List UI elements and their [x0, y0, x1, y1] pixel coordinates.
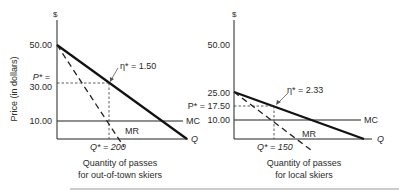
right-mr-label: MR [302, 129, 316, 139]
right-q-axis-label: Q [377, 134, 384, 144]
right-mc-label: MC [364, 115, 378, 125]
left-panel [57, 20, 188, 147]
right-pstar-label: P* = 17.50 [182, 101, 230, 111]
left-mr-line [57, 45, 124, 147]
right-dollar-symbol: $ [232, 10, 236, 20]
right-demand-line [234, 92, 364, 139]
left-caption-line1: Quantity of passes [70, 158, 170, 169]
left-tick-10: 10.00 [18, 116, 52, 126]
left-tick-30: 30.00 [18, 82, 52, 92]
right-tick-10: 10.00 [196, 115, 230, 125]
left-elasticity-label: η* = 1.50 [120, 61, 156, 71]
left-demand-line [57, 45, 187, 139]
left-tick-50: 50.00 [18, 40, 52, 50]
left-qstar-label: Q* = 200 [90, 142, 126, 152]
right-qstar-label: Q* = 150 [257, 142, 293, 152]
left-q-axis-label: Q [191, 134, 198, 144]
right-tick-25: 25.00 [196, 88, 230, 98]
left-pstar-label: P* = [18, 72, 50, 82]
right-elasticity-label: η* = 2.33 [287, 85, 323, 95]
left-caption-line2: for out-of-town skiers [70, 170, 170, 181]
right-tick-50: 50.00 [196, 40, 230, 50]
left-dollar-symbol: $ [53, 10, 57, 20]
right-caption-line2: for local skiers [254, 170, 354, 181]
right-caption-line1: Quantity of passes [254, 158, 354, 169]
left-mr-label: MR [125, 126, 139, 136]
